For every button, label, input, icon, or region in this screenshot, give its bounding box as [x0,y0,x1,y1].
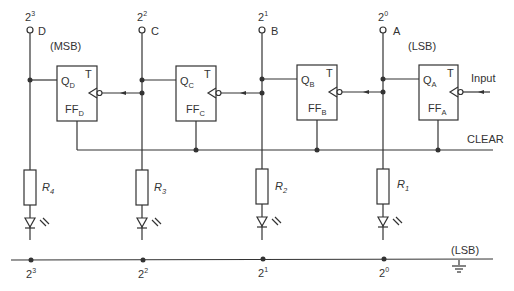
t-label-d: T [85,68,92,80]
output-weight-b: 21 [258,10,268,23]
output-terminal-c [139,27,145,33]
column-a: 20 A (LSB) [378,10,436,240]
msb-note: (MSB) [50,40,81,52]
output-terminal-b [259,27,265,33]
output-terminal-d [27,27,33,33]
column-b: 21 B [258,10,278,240]
clear-line: CLEAR [77,133,504,150]
led-a [378,217,402,227]
t-label-b: T [326,67,333,79]
resistor-r4: R4 [24,170,54,205]
resistor-r1: R1 [377,169,409,204]
output-weight-c: 22 [137,10,147,23]
resistor-r3: R3 [136,170,167,205]
bottom-weight-2: 22 [138,267,148,280]
output-name-c: C [151,25,159,37]
ground-rail: (LSB) [11,244,493,272]
output-terminal-a [380,27,386,33]
flip-flop-b: QB T FFB [260,65,386,153]
svg-text:R3: R3 [154,181,167,196]
t-label-c: T [204,68,211,80]
bottom-weight-3: 23 [26,267,36,280]
bottom-weight-1: 21 [258,266,268,279]
t-label-a: T [447,67,454,79]
output-name-a: A [393,25,401,37]
resistor-r2: R2 [256,169,288,204]
flip-flop-d: QD T FFD [28,66,145,150]
svg-text:R2: R2 [275,180,288,195]
input-label: Input [471,72,495,84]
svg-text:R4: R4 [42,181,54,196]
bottom-weight-0: 20 [379,266,389,279]
output-name-b: B [271,25,278,37]
output-weight-a: 20 [378,10,388,23]
flip-flop-c: QC T FFC [140,66,265,153]
ground-note: (LSB) [451,244,479,256]
output-name-d: D [38,25,46,37]
led-c [137,218,161,228]
counter-circuit-diagram: 23 D (MSB) 22 C 21 B 20 A (LSB) QD T FFD [0,0,514,291]
svg-text:R1: R1 [397,178,409,193]
lsb-note: (LSB) [408,40,436,52]
clear-label: CLEAR [467,133,504,145]
output-weight-d: 23 [25,10,35,23]
led-b [257,217,281,227]
led-d [25,218,49,228]
